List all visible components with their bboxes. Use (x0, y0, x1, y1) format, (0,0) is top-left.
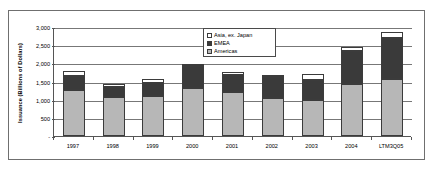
bar-segment-asia-ex-japan[interactable] (222, 72, 244, 74)
y-tick-mark (52, 119, 55, 120)
y-tick-mark (52, 46, 55, 47)
x-tick-mark (411, 137, 412, 140)
bar-segment-asia-ex-japan[interactable] (381, 32, 403, 37)
x-tick-label: 2001 (212, 142, 252, 150)
y-tick-mark (52, 83, 55, 84)
legend-label: Asia, ex. Japan (214, 32, 252, 39)
legend-item[interactable]: EMEA (207, 39, 273, 47)
bar-segment-emea[interactable] (222, 75, 244, 93)
chart-legend: Asia, ex. JapanEMEAAmericas (203, 28, 276, 57)
bar-segment-emea[interactable] (103, 87, 125, 98)
y-tick-mark (52, 101, 55, 102)
bar-segment-asia-ex-japan[interactable] (182, 64, 204, 66)
y-axis-tick-labels: -5001,0001,5002,0002,5003,000 (12, 28, 50, 137)
bar-segment-emea[interactable] (182, 66, 204, 88)
bar-segment-emea[interactable] (142, 83, 164, 95)
bar-segment-emea[interactable] (262, 77, 284, 99)
bar-segment-americas[interactable] (182, 88, 204, 136)
x-tick-mark (292, 137, 293, 140)
legend-swatch-icon (207, 49, 212, 54)
x-tick-label: 1998 (93, 142, 133, 150)
x-tick-label: 2004 (331, 142, 371, 150)
x-tick-mark (172, 137, 173, 140)
y-tick-label: 3,000 (16, 25, 50, 31)
x-tick-mark (331, 137, 332, 140)
y-tick-label: 2,000 (16, 61, 50, 67)
bar-group[interactable] (302, 27, 324, 136)
legend-item[interactable]: Asia, ex. Japan (207, 31, 273, 39)
x-tick-mark (371, 137, 372, 140)
y-tick-label: 2,500 (16, 43, 50, 49)
legend-swatch-icon (207, 33, 212, 38)
bar-segment-americas[interactable] (63, 90, 85, 137)
bar-segment-emea[interactable] (341, 51, 363, 84)
y-tick-mark (52, 28, 55, 29)
y-tick-mark (52, 64, 55, 65)
x-tick-mark (252, 137, 253, 140)
x-tick-label: 2003 (292, 142, 332, 150)
bar-segment-asia-ex-japan[interactable] (63, 71, 85, 76)
x-tick-label: 2000 (172, 142, 212, 150)
x-tick-mark (212, 137, 213, 140)
bar-segment-asia-ex-japan[interactable] (262, 75, 284, 77)
bar-segment-americas[interactable] (341, 84, 363, 136)
bar-group[interactable] (103, 27, 125, 136)
legend-item[interactable]: Americas (207, 47, 273, 55)
bar-group[interactable] (182, 27, 204, 136)
bar-segment-emea[interactable] (63, 76, 85, 89)
y-tick-label: 500 (16, 116, 50, 122)
x-tick-label: 2002 (252, 142, 292, 150)
bar-segment-americas[interactable] (302, 100, 324, 136)
y-tick-label: 1,000 (16, 98, 50, 104)
x-tick-label: 1997 (53, 142, 93, 150)
bar-segment-emea[interactable] (302, 80, 324, 100)
x-axis-tick-marks (53, 137, 411, 141)
bar-segment-asia-ex-japan[interactable] (302, 74, 324, 80)
bar-segment-americas[interactable] (381, 79, 403, 136)
x-tick-label: 1999 (132, 142, 172, 150)
legend-label: Americas (214, 48, 237, 55)
bar-segment-americas[interactable] (222, 92, 244, 136)
x-tick-mark (133, 137, 134, 140)
y-tick-label: - (16, 134, 50, 140)
bar-group[interactable] (381, 27, 403, 136)
bar-segment-americas[interactable] (103, 97, 125, 136)
bar-segment-americas[interactable] (262, 98, 284, 136)
x-tick-mark (93, 137, 94, 140)
x-axis-tick-labels: 19971998199920002001200220032004LTM3Q05 (53, 142, 411, 152)
bar-segment-asia-ex-japan[interactable] (142, 79, 164, 83)
x-tick-label: LTM3Q05 (371, 142, 411, 150)
legend-swatch-icon (207, 41, 212, 46)
legend-label: EMEA (214, 40, 230, 47)
bar-segment-americas[interactable] (142, 96, 164, 137)
bar-group[interactable] (63, 27, 85, 136)
bar-group[interactable] (142, 27, 164, 136)
bar-segment-emea[interactable] (381, 38, 403, 80)
x-tick-mark (53, 137, 54, 140)
bar-segment-asia-ex-japan[interactable] (341, 47, 363, 51)
y-tick-label: 1,500 (16, 80, 50, 86)
bar-group[interactable] (341, 27, 363, 136)
chart-figure: Issuance (Billions of Dollars) -5001,000… (0, 0, 435, 174)
bar-segment-asia-ex-japan[interactable] (103, 84, 125, 86)
